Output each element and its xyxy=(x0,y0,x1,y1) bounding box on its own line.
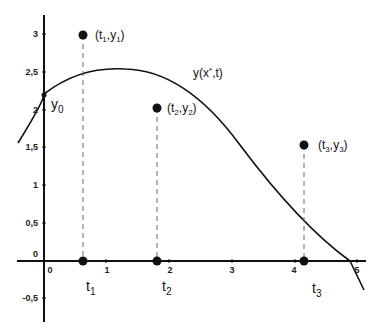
curve-y-x-star-t xyxy=(18,69,364,290)
y-tick-label: -0,5 xyxy=(22,293,38,303)
y-tick-label: 1 xyxy=(33,180,38,190)
t3-label: t3 xyxy=(312,280,322,299)
y-tick-label: 0,5 xyxy=(25,218,38,228)
plot-canvas: 3 2,5 2 1,5 1 0,5 0 -0,5 0 1 2 3 4 5 (t1… xyxy=(0,0,384,334)
curve-label: y(x*,t) xyxy=(193,66,223,80)
point-label-1: (t1,y1) xyxy=(95,28,125,44)
t2-point xyxy=(153,257,162,266)
data-point-1 xyxy=(79,31,88,40)
data-point-2 xyxy=(153,104,162,113)
x-tick-label: 4 xyxy=(291,265,296,275)
y0-point xyxy=(42,93,47,98)
y-tick-label: 2,5 xyxy=(25,67,38,77)
t1-label: t1 xyxy=(86,278,96,297)
point-label-3: (t3,y3) xyxy=(318,138,348,154)
y-tick-label: 1,5 xyxy=(25,142,38,152)
x-tick-label: 1 xyxy=(104,265,109,275)
t2-label: t2 xyxy=(162,278,172,297)
y-tick-label: 3 xyxy=(33,29,38,39)
y0-label: y0 xyxy=(51,96,64,115)
x-tick-label: 0 xyxy=(47,265,52,275)
y-tick-label: 0 xyxy=(33,249,38,259)
t3-point xyxy=(300,257,309,266)
t1-point xyxy=(79,257,88,266)
point-label-2: (t2,y2) xyxy=(167,101,197,117)
x-tick-label: 2 xyxy=(167,265,172,275)
x-tick-label: 3 xyxy=(229,265,234,275)
data-point-3 xyxy=(300,141,309,150)
